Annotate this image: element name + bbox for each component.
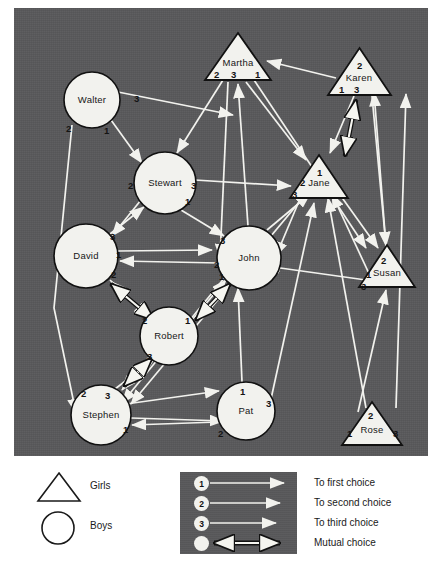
node-martha-choice-3: 3 <box>231 70 236 80</box>
legend-second-choice-label: To second choice <box>314 497 391 508</box>
node-pat-choice-2: 2 <box>218 429 223 439</box>
node-martha-choice-1: 1 <box>255 70 260 80</box>
node-david[interactable]: David312 <box>52 222 120 290</box>
node-label-david: David <box>52 250 120 261</box>
node-stephen-choice-1: 1 <box>123 425 128 435</box>
node-stephen[interactable]: Stephen231 <box>69 383 133 447</box>
legend-third-choice-label: To third choice <box>314 517 378 528</box>
node-stephen-choice-2: 2 <box>81 389 86 399</box>
node-walter-choice-3: 3 <box>134 94 139 104</box>
node-susan-choice-3: 3 <box>361 282 366 292</box>
node-jane-choice-2: 2 <box>300 178 305 188</box>
node-label-karen: Karen <box>326 72 393 83</box>
node-robert-choice-2: 2 <box>142 316 147 326</box>
legend-arrow-box: 1 2 3 <box>180 472 297 554</box>
node-rose-choice-2: 2 <box>368 411 373 421</box>
node-karen[interactable]: Karen213 <box>326 46 393 97</box>
node-david-choice-2: 2 <box>111 270 116 280</box>
legend-mutual-badge <box>194 536 209 551</box>
legend-girls-triangle-icon <box>36 470 82 504</box>
node-susan-choice-2: 2 <box>381 256 386 266</box>
node-susan-choice-1: 1 <box>366 270 371 280</box>
node-pat-choice-3: 3 <box>266 399 271 409</box>
node-label-john: John <box>215 252 283 263</box>
legend-mutual-choice-label: Mutual choice <box>314 537 376 548</box>
node-walter-choice-1: 1 <box>104 126 109 136</box>
node-robert[interactable]: Robert213 <box>138 305 200 367</box>
node-walter-choice-2: 2 <box>66 124 71 134</box>
node-john-choice-2: 2 <box>214 260 219 270</box>
node-jane-choice-3: 3 <box>292 190 297 200</box>
node-walter[interactable]: Walter321 <box>62 70 122 130</box>
sociogram-panel: Walter321Stewart231David312John321Robert… <box>14 8 428 456</box>
node-stewart-choice-3: 3 <box>191 181 196 191</box>
legend-choice-3-badge: 3 <box>194 516 209 531</box>
node-john-choice-3: 3 <box>220 236 225 246</box>
node-label-stephen: Stephen <box>69 409 133 420</box>
node-pat[interactable]: Pat132 <box>215 380 277 442</box>
legend: Girls Boys <box>14 462 428 566</box>
node-stewart[interactable]: Stewart231 <box>132 150 198 216</box>
legend-choice-1-badge: 1 <box>194 476 209 491</box>
node-label-walter: Walter <box>62 94 122 105</box>
node-jane[interactable]: Jane123 <box>288 153 350 200</box>
node-label-robert: Robert <box>138 330 200 341</box>
legend-boys-label: Boys <box>90 520 112 531</box>
node-john[interactable]: John321 <box>215 224 283 292</box>
node-stewart-choice-1: 1 <box>185 197 190 207</box>
node-john-choice-1: 1 <box>219 272 224 282</box>
node-martha-choice-2: 2 <box>214 70 219 80</box>
legend-first-choice-label: To first choice <box>314 477 375 488</box>
legend-girls-label: Girls <box>90 480 111 491</box>
node-label-martha: Martha <box>203 57 273 68</box>
node-david-choice-3: 3 <box>110 232 115 242</box>
node-susan[interactable]: Susan213 <box>357 243 417 289</box>
node-david-choice-1: 1 <box>116 250 121 260</box>
node-robert-choice-3: 3 <box>147 352 152 362</box>
node-karen-choice-3: 3 <box>354 85 359 95</box>
node-robert-choice-1: 1 <box>185 316 190 326</box>
node-label-jane: Jane <box>288 177 350 188</box>
node-jane-choice-1: 1 <box>317 168 322 178</box>
legend-choice-2-badge: 2 <box>194 496 209 511</box>
legend-boys-circle-icon <box>37 510 81 546</box>
sociogram-page: Walter321Stewart231David312John321Robert… <box>0 0 438 571</box>
node-rose-choice-1: 1 <box>347 429 352 439</box>
node-karen-choice-1: 1 <box>339 85 344 95</box>
node-stewart-choice-2: 2 <box>128 181 133 191</box>
node-label-stewart: Stewart <box>132 177 198 188</box>
node-martha[interactable]: Martha231 <box>203 31 273 82</box>
node-pat-choice-1: 1 <box>240 387 245 397</box>
node-stephen-choice-3: 3 <box>105 391 110 401</box>
node-rose-choice-3: 3 <box>393 429 398 439</box>
node-rose[interactable]: Rose213 <box>340 400 404 447</box>
node-karen-choice-2: 2 <box>357 61 362 71</box>
